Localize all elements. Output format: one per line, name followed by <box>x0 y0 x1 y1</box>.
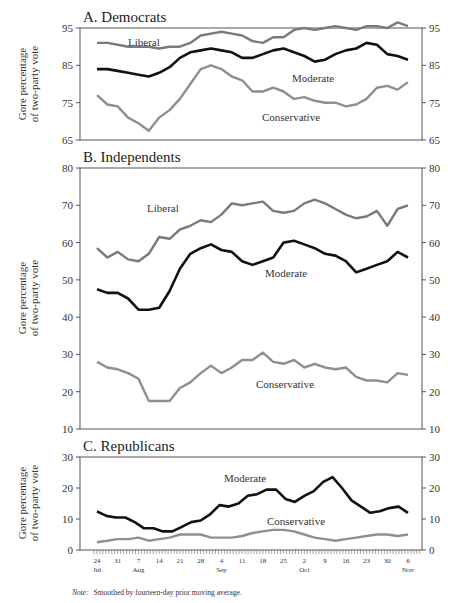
y-tick-label-left: 10 <box>62 423 74 435</box>
series-label-conservative: Conservative <box>262 111 320 123</box>
series-line-moderate <box>97 241 408 310</box>
x-tick-day: 30 <box>384 557 392 565</box>
x-tick-day: 9 <box>323 557 327 565</box>
y-tick-label-right: 95 <box>429 22 441 34</box>
x-tick-day: 6 <box>406 557 410 565</box>
y-tick-label-left: 95 <box>62 22 74 34</box>
y-axis-label: Gore percentageof two-party vote <box>16 46 40 122</box>
y-tick-label-left: 60 <box>62 237 74 249</box>
y-tick-label-left: 40 <box>62 311 74 323</box>
x-tick-month: Nov <box>402 566 415 574</box>
y-tick-label-right: 85 <box>429 59 441 71</box>
x-tick-month: Aug <box>132 566 145 574</box>
y-tick-label-left: 50 <box>62 274 74 286</box>
y-tick-label-left: 0 <box>68 544 74 556</box>
y-tick-label-left: 70 <box>62 199 74 211</box>
y-tick-label-right: 10 <box>429 423 441 435</box>
chart-figure: A. Democrats6565757585859595Gore percent… <box>0 0 458 603</box>
panel-a: A. Democrats6565757585859595Gore percent… <box>16 9 441 146</box>
y-axis-label: Gore percentageof two-party vote <box>16 465 40 541</box>
x-tick-day: 11 <box>239 557 246 565</box>
x-tick-day: 21 <box>176 557 184 565</box>
y-tick-label-left: 30 <box>62 451 74 463</box>
y-tick-label-right: 40 <box>429 311 441 323</box>
series-label-conservative: Conservative <box>256 378 314 390</box>
y-tick-label-left: 20 <box>62 386 74 398</box>
x-tick-day: 31 <box>114 557 122 565</box>
series-label-moderate: Moderate <box>292 72 334 84</box>
y-tick-label-right: 75 <box>429 97 441 109</box>
y-axis-label: Gore percentageof two-party vote <box>16 260 40 336</box>
y-tick-label-right: 10 <box>429 513 441 525</box>
y-tick-label-right: 30 <box>429 451 441 463</box>
series-label-moderate: Moderate <box>265 267 307 279</box>
panel-c: C. Republicans00101020203030Gore percent… <box>16 438 441 574</box>
x-tick-day: 25 <box>280 557 288 565</box>
series-label-liberal: Liberal <box>147 202 179 214</box>
note-body: Smoothed by fourteen-day prior moving av… <box>94 588 242 597</box>
plot-frame <box>80 168 422 429</box>
x-tick-day: 18 <box>259 557 267 565</box>
panel-title: A. Democrats <box>83 9 166 25</box>
y-tick-label-left: 80 <box>62 162 74 174</box>
x-tick-month: Jul <box>93 566 101 574</box>
y-tick-label-right: 70 <box>429 199 441 211</box>
series-line-moderate <box>97 477 408 531</box>
series-line-liberal <box>97 200 408 262</box>
y-tick-label-right: 60 <box>429 237 441 249</box>
note-text: Note: Smoothed by fourteen-day prior mov… <box>71 588 242 597</box>
y-tick-label-left: 65 <box>62 134 74 146</box>
x-tick-day: 2 <box>303 557 307 565</box>
x-tick-day: 7 <box>137 557 141 565</box>
x-tick-day: 28 <box>197 557 205 565</box>
panel-title: C. Republicans <box>83 438 175 454</box>
y-tick-label-right: 20 <box>429 482 441 494</box>
y-tick-label-right: 30 <box>429 348 441 360</box>
y-tick-label-left: 85 <box>62 59 74 71</box>
series-label-moderate: Moderate <box>224 472 266 484</box>
y-tick-label-right: 65 <box>429 134 441 146</box>
series-label-liberal: Liberal <box>128 36 160 48</box>
x-tick-day: 14 <box>156 557 164 565</box>
series-label-conservative: Conservative <box>267 515 325 527</box>
x-tick-month: Oct <box>299 566 309 574</box>
y-tick-label-left: 75 <box>62 97 74 109</box>
y-tick-label-right: 50 <box>429 274 441 286</box>
y-tick-label-left: 30 <box>62 348 74 360</box>
x-tick-day: 16 <box>342 557 350 565</box>
x-tick-month: Sep <box>216 566 227 574</box>
series-line-conservative <box>97 353 408 401</box>
note-prefix: Note: <box>71 588 89 597</box>
y-tick-label-left: 10 <box>62 513 74 525</box>
y-tick-label-right: 80 <box>429 162 441 174</box>
y-tick-label-right: 0 <box>429 544 435 556</box>
chart-panels: A. Democrats6565757585859595Gore percent… <box>16 9 441 574</box>
x-tick-day: 23 <box>363 557 371 565</box>
x-tick-day: 24 <box>94 557 102 565</box>
y-tick-label-right: 20 <box>429 386 441 398</box>
series-line-conservative <box>97 530 408 542</box>
panel-b: B. Independents1010202030304040505060607… <box>16 149 441 435</box>
x-tick-day: 4 <box>220 557 224 565</box>
panel-title: B. Independents <box>83 149 181 165</box>
y-tick-label-left: 20 <box>62 482 74 494</box>
